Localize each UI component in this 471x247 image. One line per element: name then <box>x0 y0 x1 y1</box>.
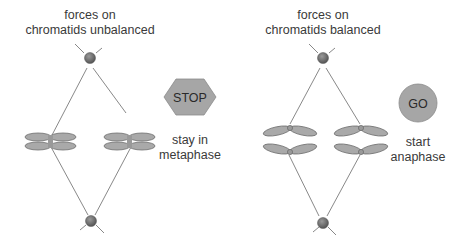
go-sign: GO <box>399 84 437 122</box>
panel-balanced-diagram: GO <box>262 44 437 235</box>
panel-unbalanced-diagram: STOP <box>25 44 216 233</box>
chromosome-right <box>104 133 155 150</box>
spindle-pole-bottom <box>86 216 97 227</box>
chromatid-lower <box>333 142 388 156</box>
chromatid-upper <box>333 124 388 138</box>
chromatid-lower <box>262 142 317 156</box>
mitosis-diagram: STOP <box>0 0 471 247</box>
spindle-pole-bottom <box>318 218 329 229</box>
spindle-fibers <box>289 44 360 235</box>
chromosome-left <box>25 133 76 150</box>
chromosome-left <box>262 124 317 156</box>
chromosome-right <box>333 124 388 156</box>
stop-label: STOP <box>173 91 207 105</box>
stop-sign: STOP <box>164 79 216 115</box>
go-label: GO <box>408 97 428 111</box>
chromatid-upper <box>262 124 317 138</box>
spindle-pole-top <box>318 53 329 64</box>
spindle-pole-top <box>85 53 96 64</box>
